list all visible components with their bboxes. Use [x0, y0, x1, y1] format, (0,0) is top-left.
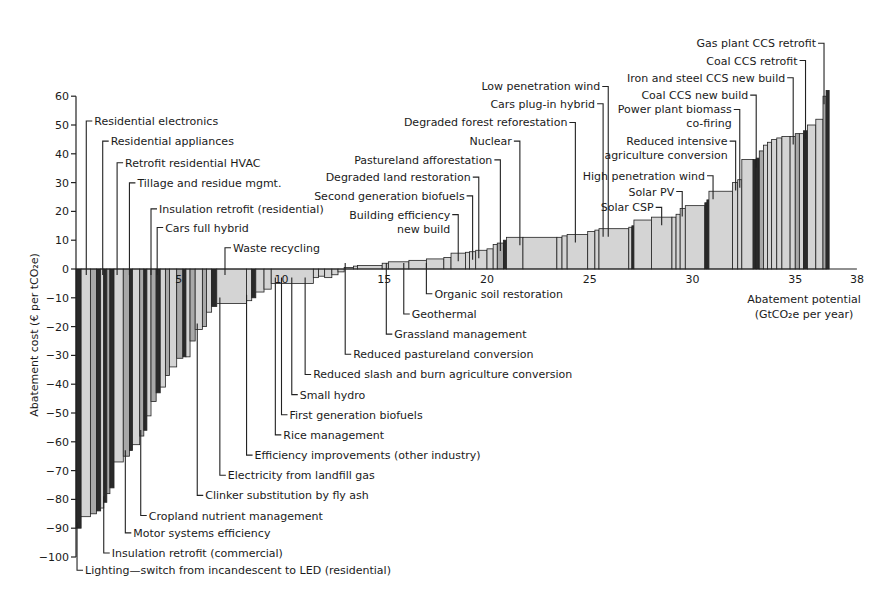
y-tick-label: −60 — [46, 436, 69, 449]
x-axis-title-line1: Abatement potential — [747, 293, 861, 306]
callout-label: Building efficiency — [349, 209, 450, 222]
abatement-bar — [206, 269, 211, 312]
abatement-bar — [756, 158, 759, 269]
abatement-bar — [795, 134, 799, 269]
abatement-bar — [247, 269, 252, 301]
callout-label: Reduced intensive — [626, 135, 728, 148]
abatement-bar — [183, 269, 186, 357]
callout-label: Degraded land restoration — [326, 171, 471, 184]
abatement-bar — [772, 139, 777, 269]
y-tick-label: −100 — [39, 551, 69, 564]
abatement-bar — [763, 145, 767, 269]
abatement-bar — [595, 230, 599, 269]
abatement-bar — [104, 269, 107, 502]
callout-label: Nuclear — [470, 135, 513, 148]
abatement-bar — [409, 260, 426, 269]
callout-label: Low penetration wind — [481, 80, 600, 93]
abatement-bar — [133, 269, 140, 445]
callout-leader — [494, 160, 500, 251]
callout-label: Small hydro — [300, 389, 366, 402]
callout-label: Rice management — [283, 429, 384, 442]
abatement-bar — [426, 259, 443, 269]
abatement-bar — [799, 134, 803, 269]
abatement-bar — [476, 250, 487, 269]
abatement-bar — [487, 249, 493, 269]
callout-leader — [282, 277, 288, 414]
callout-leader — [125, 450, 131, 533]
callout-leader — [345, 263, 351, 354]
callout-label: Waste recycling — [233, 242, 320, 255]
y-tick-label: 50 — [55, 119, 69, 132]
y-tick-label: 40 — [55, 148, 69, 161]
abatement-bar — [110, 269, 114, 488]
abatement-bar — [782, 137, 790, 269]
callout-leader — [197, 323, 203, 495]
abatement-bar — [101, 269, 104, 508]
abatement-bar — [160, 269, 165, 387]
callout-label: Lighting—switch from incandescent to LED… — [85, 564, 391, 577]
abatement-bar — [465, 252, 469, 269]
abatement-bar — [742, 160, 753, 269]
abatement-bar — [76, 269, 81, 528]
abatement-bar — [733, 183, 738, 269]
callout-leader — [117, 163, 123, 275]
x-tick-label: 38 — [850, 273, 864, 286]
abatement-bar — [672, 217, 676, 269]
abatement-bar — [217, 269, 247, 304]
callout-leader — [104, 496, 110, 553]
callout-leader — [77, 522, 83, 570]
y-tick-label: −20 — [46, 321, 69, 334]
abatement-bar — [634, 220, 651, 269]
abatement-bar — [680, 209, 685, 269]
y-axis-title: Abatement cost (€ per tCO₂e) — [28, 253, 41, 417]
y-tick-label: −40 — [46, 378, 69, 391]
y-tick-label: 30 — [55, 177, 69, 190]
abatement-bar — [114, 269, 123, 462]
abatement-bar — [123, 269, 129, 456]
abatement-bar — [768, 142, 772, 269]
callout-leader — [473, 177, 479, 258]
callout-label: Reduced pastureland conversion — [353, 348, 533, 361]
abatement-bar — [144, 269, 147, 430]
callout-label: Residential electronics — [94, 115, 218, 128]
callout-label: Second generation biofuels — [314, 190, 465, 203]
callout-label: Motor systems efficiency — [133, 527, 271, 540]
x-tick-label: 25 — [583, 273, 597, 286]
callout-leader — [220, 298, 226, 476]
abatement-bar — [195, 269, 202, 329]
callout-leader — [467, 196, 473, 260]
abatement-bar — [503, 240, 506, 269]
callout-label: High penetration wind — [583, 170, 705, 183]
callout-leader — [800, 61, 806, 139]
y-tick-label: −70 — [46, 465, 69, 478]
y-tick-label: −90 — [46, 522, 69, 535]
callout-leader — [103, 141, 109, 275]
callout-label: Cropland nutrient management — [149, 510, 324, 523]
callout-leader — [157, 228, 163, 275]
abatement-bar — [332, 269, 338, 275]
x-tick-label: 5 — [175, 273, 182, 286]
abatement-bar — [588, 232, 595, 269]
callout-label: Coal CCS retrofit — [706, 55, 798, 68]
abatement-bar — [823, 96, 826, 269]
y-tick-label: 20 — [55, 205, 69, 218]
abatement-bar — [129, 269, 132, 450]
abatement-bar — [90, 269, 96, 514]
callout-label: Gas plant CCS retrofit — [697, 37, 817, 50]
y-tick-label: 60 — [55, 90, 69, 103]
abatement-bar — [81, 269, 90, 517]
callout-leader — [151, 209, 157, 275]
abatement-bar — [165, 269, 169, 376]
abatement-bar — [790, 137, 795, 269]
abatement-bar — [826, 90, 829, 269]
callout-label: Iron and steel CCS new build — [627, 72, 785, 85]
callout-leader — [305, 277, 311, 374]
abatement-bar — [676, 214, 680, 269]
abatement-bar — [753, 160, 756, 269]
callout-label: agriculture conversion — [604, 149, 727, 162]
callout-label: Geothermal — [412, 308, 477, 321]
abatement-bar — [803, 131, 807, 269]
y-tick-label: −50 — [46, 407, 69, 420]
callout-label: Retrofit residential HVAC — [125, 157, 261, 170]
callout-label: Residential appliances — [111, 135, 234, 148]
